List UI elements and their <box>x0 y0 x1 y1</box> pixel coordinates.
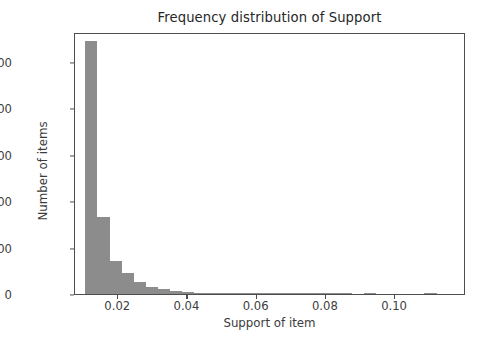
y-tick-label: 0 <box>0 288 12 302</box>
x-tick-label: 0.10 <box>364 299 424 313</box>
histogram-bar <box>182 292 194 294</box>
histogram-bar <box>255 293 267 294</box>
y-tick-label: 1500 <box>0 149 12 163</box>
histogram-bar <box>340 293 352 294</box>
x-tick-label: 0.02 <box>87 299 147 313</box>
histogram-bar <box>194 293 206 294</box>
histogram-bars <box>75 34 464 294</box>
histogram-bar <box>231 293 243 294</box>
y-tick-mark <box>70 109 74 110</box>
histogram-bar <box>291 293 303 294</box>
histogram-bar <box>364 293 376 294</box>
histogram-bar <box>315 293 327 294</box>
x-tick-label: 0.04 <box>156 299 216 313</box>
y-tick-label: 1000 <box>0 195 12 209</box>
x-tick-label: 0.08 <box>295 299 355 313</box>
histogram-bar <box>85 41 97 294</box>
histogram-bar <box>134 282 146 294</box>
y-tick-mark <box>70 62 74 63</box>
y-axis-label: Number of items <box>36 81 50 261</box>
histogram-bar <box>267 293 279 294</box>
histogram-bar <box>158 289 170 294</box>
histogram-bar <box>424 293 436 294</box>
histogram-bar <box>110 261 122 294</box>
y-tick-label: 2000 <box>0 102 12 116</box>
y-tick-mark <box>70 248 74 249</box>
histogram-bar <box>219 293 231 294</box>
histogram-bar <box>206 293 218 294</box>
chart-title: Frequency distribution of Support <box>74 10 465 25</box>
histogram-bar <box>122 273 134 294</box>
y-tick-mark <box>70 202 74 203</box>
histogram-figure: Frequency distribution of Support Number… <box>0 0 482 348</box>
histogram-bar <box>243 293 255 294</box>
x-axis-label: Support of item <box>74 316 465 330</box>
y-tick-mark <box>70 294 74 295</box>
y-tick-mark <box>70 155 74 156</box>
histogram-bar <box>328 293 340 294</box>
x-tick-label: 0.06 <box>226 299 286 313</box>
histogram-bar <box>146 287 158 294</box>
y-tick-label: 2500 <box>0 56 12 70</box>
histogram-bar <box>170 291 182 294</box>
y-tick-label: 500 <box>0 242 12 256</box>
plot-area <box>74 33 465 295</box>
histogram-bar <box>303 293 315 294</box>
histogram-bar <box>279 293 291 294</box>
histogram-bar <box>97 217 109 294</box>
